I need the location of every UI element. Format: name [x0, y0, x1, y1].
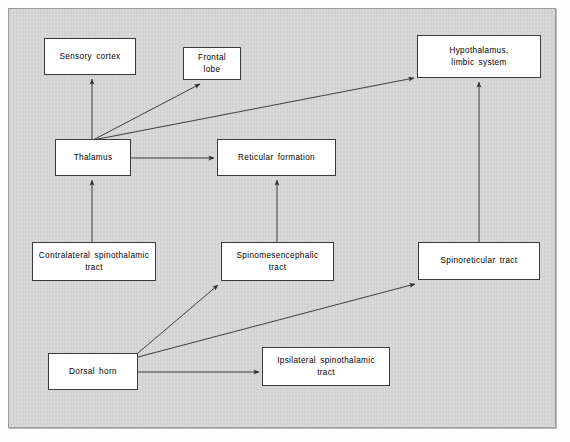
node-dorsal_horn: Dorsal horn [48, 353, 138, 390]
node-thalamus: Thalamus [55, 139, 131, 176]
node-label-dorsal_horn: Dorsal horn [69, 366, 117, 377]
node-label-contralateral: Contralateral spinothalamic tract [37, 250, 151, 272]
node-ipsilateral: Ipsilateral spinothalamic tract [262, 347, 390, 386]
node-label-spinomesenceph: Spinomesencephalic tract [226, 250, 329, 272]
node-hypothalamus: Hypothalamus, limbic system [417, 35, 541, 78]
node-label-ipsilateral: Ipsilateral spinothalamic tract [267, 355, 385, 377]
figure-root: Sensory cortexFrontal lobeHypothalamus, … [0, 0, 570, 442]
node-contralateral: Contralateral spinothalamic tract [32, 242, 156, 281]
node-reticular: Reticular formation [217, 139, 336, 176]
node-label-thalamus: Thalamus [74, 152, 113, 163]
node-frontal_lobe: Frontal lobe [183, 47, 241, 80]
node-label-hypothalamus: Hypothalamus, limbic system [449, 45, 508, 67]
node-label-frontal_lobe: Frontal lobe [188, 52, 236, 74]
node-label-sensory_cortex: Sensory cortex [59, 51, 120, 62]
node-label-spinoreticular: Spinoreticular tract [441, 255, 518, 266]
node-label-reticular: Reticular formation [238, 152, 315, 163]
node-sensory_cortex: Sensory cortex [44, 38, 136, 75]
node-spinomesenceph: Spinomesencephalic tract [221, 242, 334, 281]
node-spinoreticular: Spinoreticular tract [418, 242, 540, 280]
